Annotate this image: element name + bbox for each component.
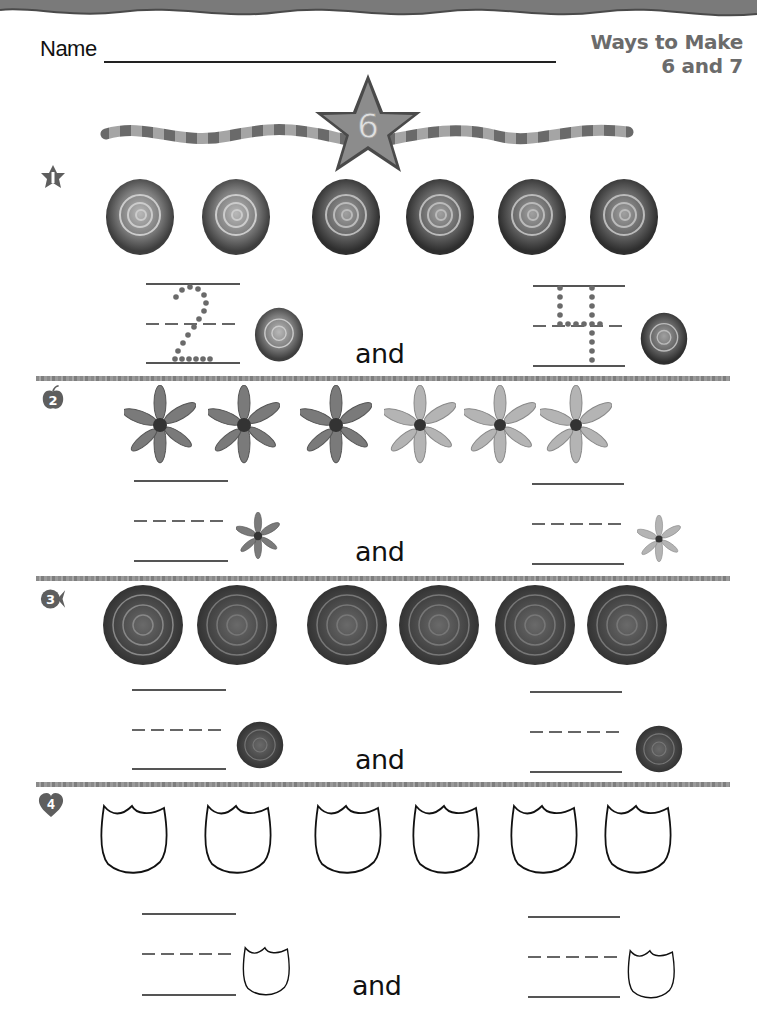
- answer-2-right-bottom-line[interactable]: [532, 563, 624, 565]
- tulip-outline-icon: [314, 802, 384, 876]
- dahlia-icon: [306, 582, 388, 668]
- conjunction-and-1: and: [355, 338, 404, 369]
- number-banner: 6: [98, 66, 636, 176]
- rose-icon: [496, 175, 568, 257]
- answer-3-left-mid-line: [132, 729, 226, 731]
- heart-badge-icon: 4: [38, 792, 64, 818]
- dahlia-icon: [102, 582, 184, 668]
- answer-4-left-top-line: [142, 913, 236, 915]
- answer-2-left-mid-line: [134, 520, 228, 522]
- rose-icon: [310, 175, 382, 257]
- lily-small-icon: [637, 515, 681, 563]
- lily-icon: [300, 385, 372, 465]
- svg-text:2: 2: [48, 393, 57, 408]
- svg-text:6: 6: [357, 106, 379, 146]
- rose-icon: [588, 175, 660, 257]
- lily-icon: [384, 385, 456, 465]
- answer-4-left-mid-line: [142, 953, 236, 955]
- answer-2-left-bottom-line[interactable]: [134, 560, 228, 562]
- dahlia-icon: [398, 582, 480, 668]
- conjunction-and-2: and: [355, 536, 404, 567]
- answer-4-right-mid-line: [528, 956, 620, 958]
- tulip-outline-small-icon: [627, 948, 677, 1000]
- svg-text:3: 3: [46, 592, 55, 607]
- tulip-outline-small-icon: [242, 945, 292, 997]
- dahlia-icon: [586, 582, 668, 668]
- answer-4-right-top-line: [528, 916, 620, 918]
- answer-2-left-top-line: [134, 480, 228, 482]
- tulip-outline-icon: [604, 802, 674, 876]
- name-label: Name: [40, 36, 97, 62]
- lily-icon: [464, 385, 536, 465]
- answer-4-right-bottom-line[interactable]: [528, 996, 620, 998]
- dahlia-small-icon: [634, 724, 684, 774]
- traced-digit-4: [552, 284, 608, 366]
- traced-digit-2: [166, 284, 216, 364]
- answer-3-right-top-line: [530, 691, 622, 693]
- answer-3-left-top-line: [132, 689, 226, 691]
- fish-badge-icon: 3: [40, 586, 66, 612]
- tulip-outline-icon: [412, 802, 482, 876]
- answer-2-right-top-line: [532, 483, 624, 485]
- star-badge-icon: [40, 164, 66, 190]
- answer-3-right-bottom-line[interactable]: [530, 771, 622, 773]
- svg-text:4: 4: [47, 796, 55, 812]
- lily-icon: [540, 385, 612, 465]
- section-divider: [36, 376, 730, 381]
- top-wave-border: [0, 0, 757, 22]
- conjunction-and-3: and: [355, 744, 404, 775]
- answer-2-right-mid-line: [532, 523, 624, 525]
- tulip-outline-icon: [510, 802, 580, 876]
- apple-badge-icon: 2: [40, 385, 66, 411]
- rose-icon: [200, 175, 272, 257]
- dahlia-small-icon: [236, 720, 284, 770]
- rose-small-icon: [637, 310, 691, 366]
- answer-3-right-mid-line: [530, 731, 622, 733]
- answer-4-left-bottom-line[interactable]: [142, 994, 236, 996]
- rose-small-icon: [252, 305, 306, 363]
- name-input-line[interactable]: [104, 61, 556, 63]
- page-title-line1: Ways to Make: [590, 30, 743, 54]
- answer-3-left-bottom-line[interactable]: [132, 768, 226, 770]
- lily-small-icon: [236, 512, 280, 560]
- lily-icon: [208, 385, 280, 465]
- rose-icon: [404, 175, 476, 257]
- tulip-outline-icon: [204, 802, 274, 876]
- dahlia-icon: [196, 582, 278, 668]
- tulip-outline-icon: [100, 802, 170, 876]
- rose-icon: [104, 175, 176, 257]
- section-divider: [36, 782, 730, 787]
- section-divider: [36, 576, 730, 581]
- lily-icon: [124, 385, 196, 465]
- dahlia-icon: [494, 582, 576, 668]
- conjunction-and-4: and: [352, 970, 401, 1001]
